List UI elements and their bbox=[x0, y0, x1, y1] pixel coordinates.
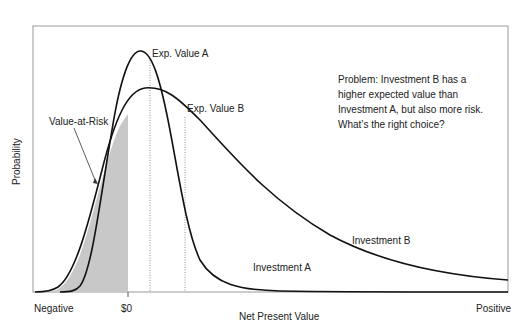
problem-line-2: higher expected value than bbox=[338, 89, 458, 100]
exp-value-b-label: Exp. Value B bbox=[187, 103, 244, 114]
var-pointer-line bbox=[74, 128, 95, 180]
var-label: Value-at-Risk bbox=[49, 116, 109, 127]
investment-b-label: Investment B bbox=[352, 235, 411, 246]
problem-line-1: Problem: Investment B has a bbox=[338, 74, 467, 85]
problem-line-3: Investment A, but also more risk. bbox=[338, 104, 483, 115]
y-axis-label: Probability bbox=[11, 138, 22, 185]
problem-line-4: What’s the right choice? bbox=[338, 119, 445, 130]
var-arrowhead-icon bbox=[93, 178, 98, 184]
x-axis-label: Net Present Value bbox=[239, 311, 320, 322]
chart: Exp. Value A Exp. Value B Value-at-Risk … bbox=[0, 0, 527, 333]
x-tick-zero: $0 bbox=[121, 303, 133, 314]
investment-a-label: Investment A bbox=[253, 262, 311, 273]
x-tick-positive: Positive bbox=[476, 303, 511, 314]
exp-value-a-label: Exp. Value A bbox=[152, 48, 209, 59]
x-tick-negative: Negative bbox=[34, 303, 74, 314]
